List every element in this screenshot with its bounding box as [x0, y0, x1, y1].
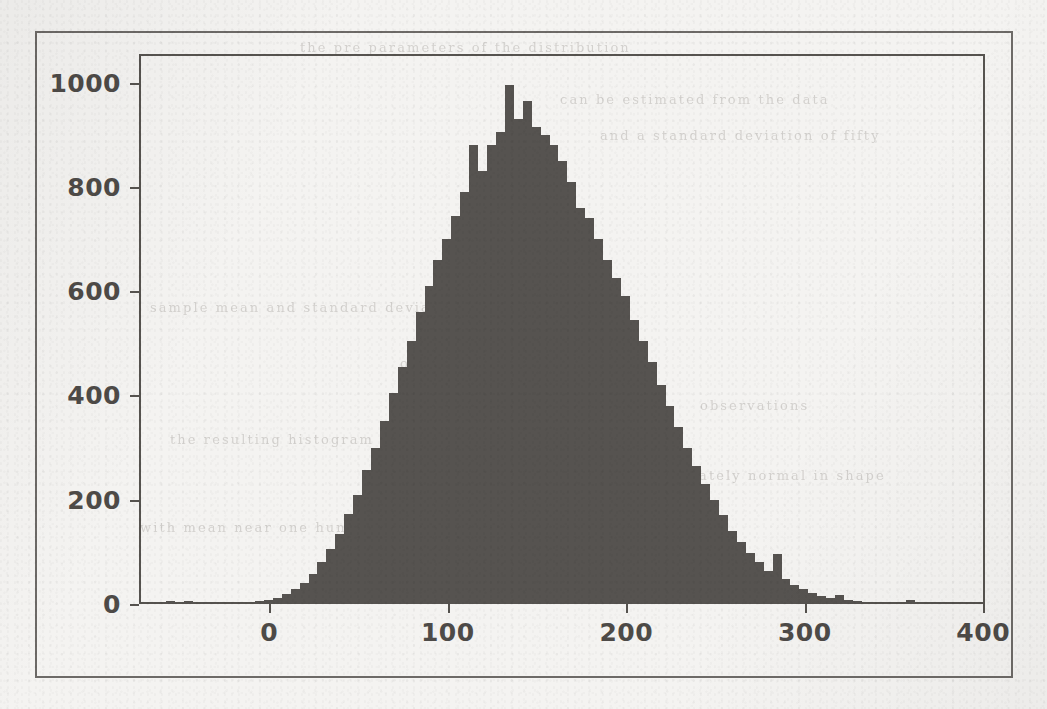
- x-axis-tick: [448, 604, 450, 613]
- histogram-bar: [300, 583, 309, 604]
- y-axis-tick-label: 0: [103, 590, 121, 619]
- histogram-bar: [505, 85, 514, 604]
- histogram-bar: [317, 562, 326, 604]
- histogram-bar: [433, 260, 442, 604]
- histogram-chart: 02004006008001000 0100200300400: [139, 54, 985, 604]
- y-axis-tick: [130, 500, 139, 502]
- histogram-bar: [201, 602, 210, 604]
- x-axis-tick-label: 300: [778, 618, 832, 647]
- histogram-bar: [639, 341, 648, 604]
- histogram-bar: [469, 145, 478, 604]
- histogram-bar: [371, 448, 380, 604]
- histogram-bar: [362, 470, 371, 605]
- histogram-bar: [594, 239, 603, 604]
- y-axis-tick-label: 1000: [49, 68, 121, 97]
- histogram-bar: [326, 549, 335, 604]
- histogram-bar: [487, 145, 496, 604]
- histogram-bar: [291, 589, 300, 604]
- histogram-bar: [273, 598, 282, 604]
- histogram-bar: [844, 600, 853, 604]
- y-axis-tick: [130, 604, 139, 606]
- histogram-bar: [460, 192, 469, 604]
- scanned-page: the pre parameters of the distributionca…: [0, 0, 1047, 709]
- histogram-bar: [353, 495, 362, 604]
- y-axis-tick-label: 200: [67, 485, 121, 514]
- histogram-bar: [674, 427, 683, 604]
- histogram-bar: [451, 216, 460, 604]
- histogram-bar: [255, 601, 264, 604]
- histogram-bar: [835, 595, 844, 604]
- histogram-bar: [666, 406, 675, 604]
- x-axis-tick: [983, 604, 985, 613]
- histogram-bar: [612, 278, 621, 604]
- x-axis-tick-label: 100: [421, 618, 475, 647]
- histogram-bar: [558, 161, 567, 604]
- histogram-bar: [585, 218, 594, 604]
- histogram-bar: [746, 553, 755, 604]
- histogram-bar: [683, 448, 692, 604]
- x-axis-tick-label: 200: [599, 618, 653, 647]
- histogram-bar: [603, 260, 612, 604]
- y-axis-tick: [130, 187, 139, 189]
- histogram-bar: [808, 593, 817, 604]
- histogram-bar: [782, 579, 791, 604]
- x-axis-tick: [269, 604, 271, 613]
- histogram-bar: [790, 585, 799, 604]
- histogram-bar: [344, 514, 353, 604]
- x-axis-tick: [805, 604, 807, 613]
- histogram-bar: [309, 574, 318, 604]
- histogram-bar: [701, 484, 710, 604]
- y-axis-tick-label: 400: [67, 381, 121, 410]
- histogram-bar: [335, 534, 344, 604]
- histogram-bars: [139, 54, 985, 604]
- histogram-bar: [648, 362, 657, 604]
- histogram-bar: [567, 182, 576, 604]
- histogram-bar: [496, 132, 505, 604]
- histogram-bar: [523, 101, 532, 604]
- histogram-bar: [407, 341, 416, 604]
- y-axis-tick: [130, 291, 139, 293]
- histogram-bar: [657, 385, 666, 604]
- histogram-bar: [799, 589, 808, 604]
- histogram-bar: [692, 466, 701, 604]
- histogram-bar: [817, 596, 826, 604]
- x-axis-tick-label: 400: [956, 618, 1010, 647]
- histogram-bar: [550, 145, 559, 604]
- histogram-bar: [389, 393, 398, 604]
- histogram-bar: [826, 598, 835, 604]
- histogram-bar: [630, 320, 639, 604]
- histogram-bar: [576, 208, 585, 604]
- y-axis-tick: [130, 395, 139, 397]
- histogram-bar: [541, 135, 550, 604]
- histogram-bar: [773, 554, 782, 604]
- histogram-bar: [282, 594, 291, 604]
- histogram-bar: [514, 119, 523, 604]
- histogram-bar: [442, 239, 451, 604]
- histogram-bar: [398, 367, 407, 604]
- histogram-bar: [380, 421, 389, 605]
- histogram-bar: [728, 531, 737, 604]
- histogram-bar: [184, 601, 193, 604]
- histogram-bar: [532, 127, 541, 604]
- histogram-bar: [478, 171, 487, 604]
- y-axis-tick: [130, 83, 139, 85]
- histogram-bar: [719, 515, 728, 604]
- histogram-bar: [853, 601, 862, 604]
- histogram-bar: [755, 562, 764, 604]
- histogram-bar: [416, 312, 425, 604]
- histogram-bar: [737, 542, 746, 604]
- histogram-bar: [621, 296, 630, 604]
- y-axis-tick-label: 600: [67, 277, 121, 306]
- histogram-bar: [906, 600, 915, 604]
- x-axis-tick-label: 0: [260, 618, 278, 647]
- histogram-bar: [425, 286, 434, 604]
- x-axis-tick: [626, 604, 628, 613]
- histogram-bar: [710, 500, 719, 604]
- histogram-bar: [764, 571, 773, 604]
- y-axis-tick-label: 800: [67, 172, 121, 201]
- histogram-bar: [166, 601, 175, 604]
